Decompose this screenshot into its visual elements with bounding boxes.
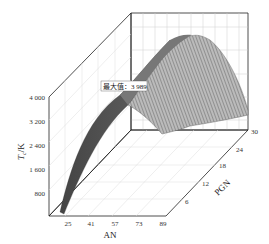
max-annotation: 最大值：3 989: [101, 81, 147, 91]
surface-chart: 最大值：3 989 4 000 3 200 2 400 1 600 800 Tc…: [0, 0, 269, 244]
svg-text:24: 24: [236, 146, 244, 154]
svg-text:2 400: 2 400: [29, 142, 45, 150]
svg-text:3 200: 3 200: [29, 118, 45, 126]
svg-text:25: 25: [65, 220, 73, 228]
z-axis-ticks: 4 000 3 200 2 400 1 600 800: [29, 94, 45, 198]
y-axis-label: PGN: [212, 177, 232, 197]
z-axis-label: Tc/K: [16, 143, 27, 160]
x-axis-label: AN: [104, 230, 117, 240]
svg-text:1 600: 1 600: [29, 166, 45, 174]
svg-text:Tc/K: Tc/K: [16, 143, 27, 160]
svg-text:30: 30: [251, 128, 259, 136]
svg-text:57: 57: [112, 220, 120, 228]
svg-text:73: 73: [136, 220, 144, 228]
svg-text:最大值：3 989: 最大值：3 989: [103, 82, 147, 91]
svg-text:12: 12: [202, 180, 210, 188]
svg-text:18: 18: [219, 162, 227, 170]
svg-text:4 000: 4 000: [29, 94, 45, 102]
x-axis-ticks: 25 41 57 73 89: [65, 220, 168, 228]
svg-text:41: 41: [88, 220, 96, 228]
svg-text:89: 89: [160, 220, 168, 228]
svg-text:800: 800: [35, 190, 46, 198]
svg-text:6: 6: [185, 198, 189, 206]
